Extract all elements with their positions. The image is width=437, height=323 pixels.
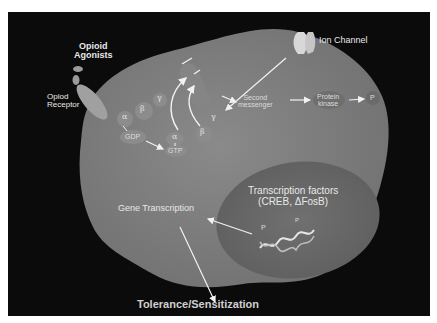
ion-channel-icon	[294, 32, 316, 54]
second-messenger-label-line1: Second	[238, 94, 273, 101]
second-messenger-label: Second messenger	[238, 94, 273, 109]
g-beta-label: β	[140, 105, 145, 113]
opioid-agonists-label: Opioid Agonists	[74, 42, 113, 61]
dna-phosphate-label-2: P	[295, 217, 299, 223]
dna-phosphate-label: P	[261, 224, 266, 231]
gtp-label: GTP	[168, 147, 182, 154]
outcome-label: Tolerance/Sensitization	[137, 299, 259, 311]
diagram-graphics	[8, 12, 430, 316]
g-gamma-released-label: γ	[211, 113, 216, 121]
agonist-molecule-icon	[73, 66, 83, 72]
agonist-molecule-icon	[73, 75, 80, 85]
gene-transcription-label: Gene Transcription	[118, 204, 194, 213]
second-messenger-label-line2: messenger	[238, 101, 273, 108]
transcription-factors-label-line1: Transcription factors	[248, 186, 338, 197]
opioid-receptor-label: Opiod Receptor	[47, 93, 79, 110]
g-gamma-label: γ	[157, 94, 162, 102]
transcription-factors-label: Transcription factors (CREB, ΔFosB)	[248, 186, 338, 207]
protein-kinase-label-line1: Protein	[317, 93, 339, 100]
g-alpha-label: α	[122, 113, 127, 121]
protein-kinase-label-line2: kinase	[317, 100, 339, 107]
opioid-receptor-label-line2: Receptor	[47, 101, 79, 109]
ion-channel-label: Ion Channel	[319, 36, 368, 45]
protein-kinase-label: Protein kinase	[317, 93, 339, 108]
transcription-factors-label-line2: (CREB, ΔFosB)	[248, 197, 338, 208]
diagram-panel: Opioid Agonists Opiod Receptor Ion Chann…	[8, 12, 430, 316]
g-beta-active-label: β	[200, 128, 205, 136]
opioid-agonists-label-line2: Agonists	[74, 51, 113, 60]
g-alpha-active-label: α	[172, 133, 177, 141]
gdp-label: GDP	[125, 133, 140, 140]
phosphate-label: P	[370, 94, 375, 101]
